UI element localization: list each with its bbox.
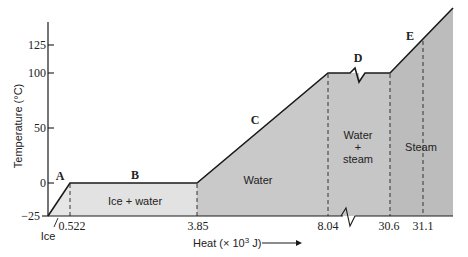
region-label-ice: Ice (41, 230, 56, 242)
region-label-water-steam-line2: + (355, 141, 361, 153)
segment-label-b: B (131, 168, 139, 182)
region-label-ice-water: Ice + water (108, 195, 162, 207)
ytick-125: 125 (28, 38, 46, 52)
y-axis-label: Temperature (°C) (12, 84, 24, 168)
region-label-steam: Steam (405, 141, 437, 153)
xtick-385: 3.85 (188, 219, 209, 233)
xtick-804: 8.04 (318, 219, 339, 233)
segment-label-d: D (354, 51, 363, 65)
region-label-water: Water (244, 174, 273, 186)
region-steam (390, 8, 453, 216)
segment-label-a: A (56, 169, 65, 183)
arrowhead-icon (296, 240, 302, 246)
segment-label-c: C (251, 113, 260, 127)
ytick-minus-25: −25 (21, 209, 40, 223)
ytick-50: 50 (34, 121, 46, 135)
xtick-0522: 0.522 (59, 219, 86, 233)
xtick-306: 30.6 (379, 219, 400, 233)
xtick-311: 31.1 (413, 219, 434, 233)
region-label-water-steam-line3: steam (343, 153, 373, 165)
region-label-water-steam-line1: Water (344, 129, 373, 141)
ice-pointer-line (54, 218, 58, 227)
region-water (197, 73, 328, 216)
ytick-100: 100 (28, 66, 46, 80)
segment-label-e: E (406, 29, 414, 43)
ytick-0: 0 (40, 176, 46, 190)
x-axis-label: Heat (× 103 J) (193, 236, 261, 249)
heating-curve-chart: 125 100 50 0 −25 Temperature (°C) 0.522 … (0, 0, 468, 257)
